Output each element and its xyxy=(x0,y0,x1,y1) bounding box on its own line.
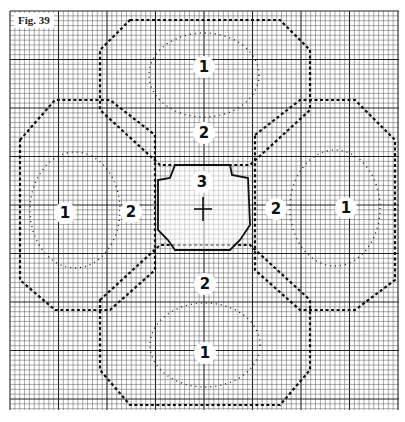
zone-label-center: 3 xyxy=(191,171,213,193)
zone-label-top-petal: 1 xyxy=(193,56,215,78)
figure-label: Fig. 39 xyxy=(14,13,54,28)
zone-label-inner-bottom: 2 xyxy=(194,273,216,295)
zone-label-inner-top: 2 xyxy=(193,122,215,144)
zone-label-inner-right: 2 xyxy=(265,198,287,220)
zone-label-right-petal: 1 xyxy=(335,197,357,219)
zone-label-bottom-petal: 1 xyxy=(194,342,216,364)
chart-diagram: Fig. 39 111122223 xyxy=(0,0,405,422)
zone-label-inner-left: 2 xyxy=(120,201,142,223)
zone-label-left-petal: 1 xyxy=(54,202,76,224)
